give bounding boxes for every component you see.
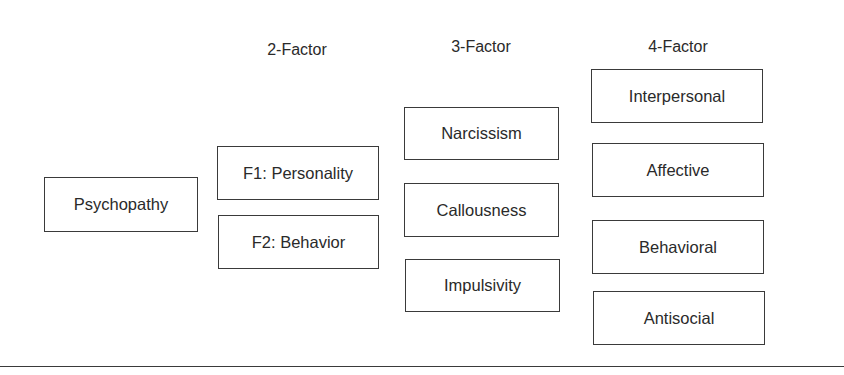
node-narcissism: Narcissism	[404, 107, 559, 160]
node-antisocial: Antisocial	[593, 291, 765, 345]
node-impulsivity: Impulsivity	[405, 259, 560, 312]
header-3-factor: 3-Factor	[421, 37, 541, 57]
node-interpersonal: Interpersonal	[591, 69, 763, 123]
node-callousness: Callousness	[404, 183, 559, 237]
header-2-factor: 2-Factor	[237, 40, 357, 60]
header-4-factor: 4-Factor	[618, 37, 738, 57]
bottom-divider	[0, 366, 844, 367]
node-psychopathy: Psychopathy	[44, 177, 198, 232]
node-affective: Affective	[592, 143, 764, 197]
node-f2-behavior: F2: Behavior	[218, 215, 379, 269]
node-f1-personality: F1: Personality	[217, 146, 379, 200]
node-behavioral: Behavioral	[592, 220, 764, 274]
